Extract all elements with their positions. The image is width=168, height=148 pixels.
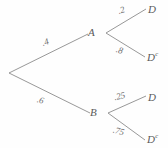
node-dc-top-letter: D xyxy=(147,51,155,63)
edge-a-to-dc xyxy=(106,33,145,57)
probability-tree-figure: A B D Dc D Dc .4 .6 .2 .8 .25 .75 xyxy=(0,0,168,148)
node-a-label: A xyxy=(88,27,95,38)
node-b-label: B xyxy=(90,107,97,118)
node-d-top: D xyxy=(148,4,156,15)
node-d-top-letter: D xyxy=(148,3,156,15)
node-dc-bottom-letter: D xyxy=(147,133,155,145)
edge-root-to-b xyxy=(9,73,90,113)
node-dc-top-superscript: c xyxy=(155,50,158,57)
tree-edges xyxy=(0,0,168,148)
node-d-bottom: D xyxy=(148,92,156,103)
node-d-bottom-letter: D xyxy=(148,91,156,103)
node-dc-top: Dc xyxy=(147,51,158,63)
node-dc-bottom: Dc xyxy=(147,133,158,145)
node-dc-bottom-superscript: c xyxy=(155,132,158,139)
